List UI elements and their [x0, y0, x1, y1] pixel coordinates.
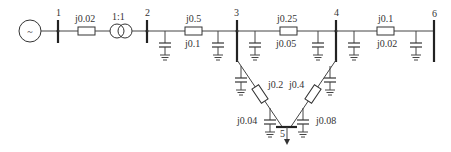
bus-3: 3: [234, 7, 239, 62]
bus-3-label: 3: [234, 7, 239, 18]
impedance-label-4-6: j0.1: [377, 13, 393, 24]
impedance-icon: [185, 27, 202, 35]
power-system-diagram: ~ 1 j0.02 1:1 2 j0.5 j0.1 3 j0.25 j0.05: [0, 0, 451, 152]
bus-6: 6: [432, 8, 437, 62]
shunt-label-4-5: j0.08: [315, 115, 336, 126]
shunt-capacitor-icon: [235, 66, 247, 95]
transformer-icon: 1:1: [110, 11, 132, 38]
shunt-capacitor-icon: [212, 31, 224, 60]
generator-icon: ~: [19, 20, 41, 42]
impedance-icon: [305, 85, 321, 104]
impedance-label-3-5: j0.2: [267, 79, 283, 90]
bus-4-label: 4: [334, 7, 339, 18]
bus-2: 2: [145, 7, 150, 43]
impedance-icon: [377, 27, 394, 35]
shunt-capacitor-icon: [249, 31, 261, 60]
bus-6-label: 6: [432, 8, 437, 19]
impedance-label-3-4: j0.25: [276, 13, 297, 24]
transformer-ratio: 1:1: [112, 11, 125, 22]
shunt-capacitor-icon: [312, 31, 324, 60]
bus-4: 4: [334, 7, 339, 62]
impedance-icon: [252, 85, 268, 104]
shunt-capacitor-icon: [324, 66, 336, 95]
shunt-capacitor-icon: [348, 31, 360, 60]
shunt-label-3-5: j0.04: [236, 115, 257, 126]
shunt-label-2-3: j0.1: [184, 38, 200, 49]
shunt-label-4-6: j0.02: [376, 38, 397, 49]
impedance-label-1: j0.02: [74, 13, 95, 24]
impedance-icon: [78, 27, 95, 35]
shunt-capacitor-icon: [410, 31, 422, 60]
generator-symbol: ~: [27, 26, 33, 37]
impedance-label-2-3: j0.5: [185, 13, 201, 24]
bus-2-label: 2: [145, 7, 150, 18]
shunt-label-3-4: j0.05: [275, 38, 296, 49]
impedance-icon: [280, 27, 297, 35]
impedance-label-4-5: j0.4: [288, 79, 304, 90]
bus-1: 1: [56, 7, 61, 43]
bus-1-label: 1: [56, 7, 61, 18]
shunt-capacitor-icon: [159, 31, 171, 60]
bus-5-label: 5: [280, 128, 285, 139]
shunt-capacitor-icon: [264, 108, 276, 137]
shunt-capacitor-icon: [297, 108, 309, 137]
